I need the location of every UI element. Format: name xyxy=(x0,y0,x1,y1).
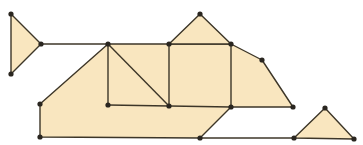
vertex-dot xyxy=(291,135,296,140)
main-body xyxy=(40,44,293,138)
filled-polygons xyxy=(11,14,354,139)
right-triangle xyxy=(294,108,354,139)
vertex-dot xyxy=(166,41,171,46)
vertex-dot xyxy=(197,11,202,16)
vertex-dot xyxy=(228,41,233,46)
vertex-dot xyxy=(228,104,233,109)
vertex-dot xyxy=(38,41,43,46)
vertex-dot xyxy=(166,103,171,108)
top-triangle xyxy=(169,14,231,44)
vertex-dot xyxy=(8,71,13,76)
vertex-dot xyxy=(322,105,327,110)
vertex-dot xyxy=(8,11,13,16)
vertex-dot xyxy=(105,41,110,46)
geometric-figure xyxy=(0,0,363,145)
vertex-dot xyxy=(105,102,110,107)
vertex-dot xyxy=(351,136,356,141)
vertex-dot xyxy=(197,135,202,140)
vertex-dot xyxy=(37,134,42,139)
vertex-dot xyxy=(290,104,295,109)
vertex-dot xyxy=(37,101,42,106)
left-triangle xyxy=(11,14,41,74)
vertex-dot xyxy=(259,57,264,62)
